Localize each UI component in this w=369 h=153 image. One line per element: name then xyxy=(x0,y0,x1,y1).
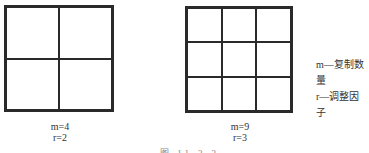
grid-cell xyxy=(256,77,291,111)
r-value-left: r=2 xyxy=(40,132,80,143)
legend-r: r—调整因子 xyxy=(316,89,369,121)
grid-cell xyxy=(6,59,59,111)
grid-cell xyxy=(256,42,291,76)
label-right: m=9 r=3 xyxy=(220,121,260,143)
grid-cell xyxy=(187,77,222,111)
grid-cell xyxy=(59,59,112,111)
grid-3x3 xyxy=(185,6,293,113)
grid-2x2 xyxy=(4,5,114,112)
grid-cell xyxy=(222,8,257,42)
grid-cell xyxy=(187,8,222,42)
legend: m—复制数量 r—调整因子 xyxy=(316,57,369,121)
grid-cell xyxy=(59,7,112,59)
figure-caption: 图 11-3-3 xyxy=(160,146,219,153)
grid-cell xyxy=(222,42,257,76)
grid-cell xyxy=(256,8,291,42)
grid-cell xyxy=(222,77,257,111)
legend-m: m—复制数量 xyxy=(316,57,369,89)
grid-cell xyxy=(6,7,59,59)
grid-cell xyxy=(187,42,222,76)
label-left: m=4 r=2 xyxy=(40,121,80,143)
m-value-right: m=9 xyxy=(220,121,260,132)
m-value-left: m=4 xyxy=(40,121,80,132)
r-value-right: r=3 xyxy=(220,132,260,143)
